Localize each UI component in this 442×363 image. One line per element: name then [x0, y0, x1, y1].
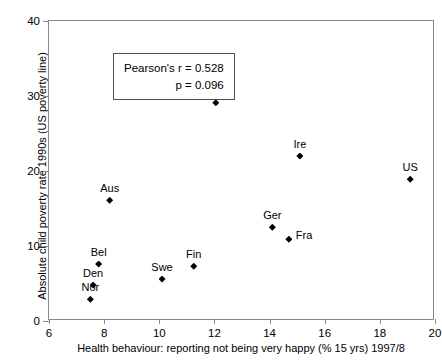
- x-tick: [325, 319, 326, 324]
- x-tick-label-16: 16: [318, 327, 331, 339]
- y-tick-label-20: 20: [27, 165, 40, 177]
- x-tick: [380, 319, 381, 324]
- x-tick: [159, 319, 160, 324]
- x-tick-label-12: 12: [208, 327, 221, 339]
- point-label-ire: Ire: [293, 138, 306, 150]
- y-tick-label-10: 10: [27, 240, 40, 252]
- point-label-den: Den: [83, 267, 103, 279]
- x-tick-label-18: 18: [373, 327, 386, 339]
- y-tick: [43, 96, 49, 97]
- point-label-bel: Bel: [91, 246, 107, 258]
- diamond-marker-icon: [87, 296, 94, 303]
- point-label-swe: Swe: [151, 261, 172, 273]
- scatter-chart: Absolute child poverty rate 1990s (US po…: [0, 0, 442, 363]
- diamond-marker-icon: [296, 153, 303, 160]
- point-label-ger: Ger: [263, 209, 281, 221]
- y-tick: [43, 171, 49, 172]
- y-axis-title-wrapper: Absolute child poverty rate 1990s (US po…: [14, 20, 15, 320]
- x-tick: [214, 319, 215, 324]
- pearson-r-text: Pearson's r = 0.528: [124, 60, 224, 77]
- diamond-marker-icon: [269, 224, 276, 231]
- diamond-marker-icon: [190, 263, 197, 270]
- x-tick: [104, 319, 105, 324]
- statistics-annotation-box: Pearson's r = 0.528 p = 0.096: [113, 53, 235, 100]
- y-tick-label-0: 0: [34, 315, 40, 327]
- y-tick: [43, 21, 49, 22]
- p-value-text: p = 0.096: [124, 77, 224, 94]
- point-label-us: US: [403, 161, 418, 173]
- point-label-fin: Fin: [186, 248, 201, 260]
- point-label-nor: Nor: [81, 281, 99, 293]
- diamond-marker-icon: [159, 276, 166, 283]
- diamond-marker-icon: [106, 197, 113, 204]
- y-tick: [43, 246, 49, 247]
- y-tick-label-30: 30: [27, 90, 40, 102]
- point-label-fra: Fra: [296, 229, 313, 241]
- x-tick-label-10: 10: [153, 327, 166, 339]
- point-label-aus: Aus: [100, 182, 119, 194]
- diamond-marker-icon: [285, 236, 292, 243]
- x-axis-title: Health behaviour: reporting not being ve…: [48, 342, 434, 354]
- x-tick: [49, 319, 50, 324]
- x-tick-label-6: 6: [46, 327, 52, 339]
- x-tick-label-14: 14: [263, 327, 276, 339]
- x-tick-label-20: 20: [429, 327, 442, 339]
- plot-area: 010203040 68101214161820 NorDenBelAusSwe…: [48, 20, 434, 320]
- x-tick: [270, 319, 271, 324]
- y-tick-label-40: 40: [27, 15, 40, 27]
- x-tick-label-8: 8: [101, 327, 107, 339]
- diamond-marker-icon: [407, 176, 414, 183]
- x-tick: [435, 319, 436, 324]
